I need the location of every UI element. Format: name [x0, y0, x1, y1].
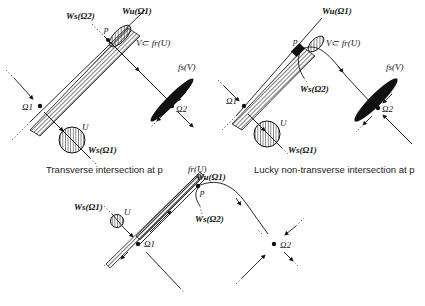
- u-disk: [254, 121, 280, 147]
- omega2-point: [170, 104, 174, 108]
- label-fs-v: fs(V): [386, 62, 404, 72]
- omega2-point: [272, 242, 276, 246]
- label-fs-v: fs(V): [178, 62, 196, 72]
- panel-lucky: Wu(Ω1) p V⊂ fr(U) Ws(Ω2) fs(V) Ω1 Ω2 U W…: [218, 6, 415, 175]
- label-omega2: Ω2: [176, 104, 188, 114]
- label-ws-omega2: Ws(Ω2): [195, 214, 224, 224]
- hatched-strip-upper: [136, 172, 204, 240]
- label-omega2: Ω2: [280, 240, 292, 250]
- label-wu-omega1: Wu(Ω1): [196, 172, 226, 182]
- omega1-point: [38, 104, 42, 108]
- label-ws-omega1: Ws(Ω1): [74, 202, 103, 212]
- p-point: [106, 38, 110, 42]
- label-ws-omega2: Ws(Ω2): [300, 84, 329, 94]
- label-vc-fr-u: V⊂ fr(U): [326, 38, 360, 48]
- label-wu-omega1: Wu(Ω1): [122, 6, 152, 16]
- label-u: U: [82, 122, 89, 132]
- label-u: U: [280, 118, 287, 128]
- label-omega2: Ω2: [382, 104, 394, 114]
- hatched-strip: [30, 28, 140, 136]
- panel-nontransverse: fr(U) Wu(Ω1) p Ws(Ω1) U Ws(Ω2) Ω1 Ω2: [74, 164, 304, 292]
- label-vc-fr-u: V⊂ fr(U): [136, 38, 170, 48]
- label-ws-omega1: Ws(Ω1): [88, 145, 117, 155]
- wu-omega1-line: [140, 178, 206, 244]
- omega2-point: [376, 106, 380, 110]
- panel-transverse: Ws(Ω2) Wu(Ω1) p V⊂ fr(U) fs(V) Ω1 Ω2 U W…: [6, 6, 197, 175]
- label-p: p: [292, 36, 298, 46]
- ws-omega2-curve: [198, 182, 268, 234]
- label-omega1: Ω1: [226, 96, 237, 106]
- p-point: [296, 48, 300, 52]
- omega1-point: [136, 242, 140, 246]
- label-ws-omega1: Ws(Ω1): [288, 145, 317, 155]
- wu-omega1-line: [236, 18, 322, 116]
- label-p: p: [103, 24, 109, 34]
- label-p: p: [199, 187, 205, 197]
- diagram-canvas: Ws(Ω2) Wu(Ω1) p V⊂ fr(U) fs(V) Ω1 Ω2 U W…: [0, 0, 425, 306]
- label-ws-omega2: Ws(Ω2): [66, 11, 95, 21]
- label-omega1: Ω1: [22, 102, 33, 112]
- label-u: U: [124, 207, 131, 217]
- label-omega1: Ω1: [144, 239, 155, 249]
- label-wu-omega1: Wu(Ω1): [322, 6, 352, 16]
- caption-transverse: Transverse intersection at p: [46, 164, 163, 175]
- fs-v-ellipse: [351, 75, 402, 126]
- omega1-point: [242, 104, 246, 108]
- caption-lucky: Lucky non-transverse intersection at p: [254, 164, 415, 175]
